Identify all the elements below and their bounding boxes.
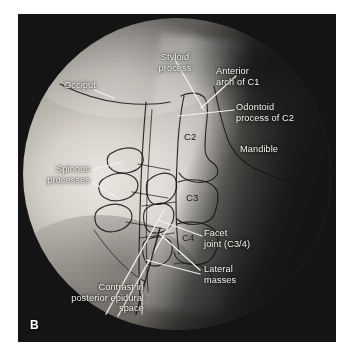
label-vertebra-c3: C3	[186, 192, 198, 203]
spinous-process-c2-outline	[107, 148, 143, 173]
occiput-outline	[60, 84, 170, 104]
anatomy-tracing-overlay	[18, 14, 336, 342]
leader-anterior-arch-c1	[201, 76, 236, 108]
panel-letter: B	[30, 318, 39, 332]
spinous-process-connector-upper	[138, 164, 170, 170]
c5-body-outline	[174, 263, 213, 284]
spinous-process-connector-lower	[126, 222, 164, 229]
spinous-process-c3-outline	[99, 173, 138, 201]
radiograph-plate: Styloid process Anterior arch of C1 Odon…	[18, 14, 336, 342]
spinous-process-c4-outline	[95, 204, 132, 232]
label-vertebra-c4: C4	[182, 232, 194, 243]
radiograph-figure: Styloid process Anterior arch of C1 Odon…	[0, 0, 352, 355]
lateral-mass-c2-outline	[146, 173, 176, 204]
leader-occiput	[94, 90, 114, 98]
mandible-outline	[214, 86, 314, 190]
leader-spinous-processes-lower	[92, 182, 118, 198]
leader-odontoid-process-c2	[178, 110, 234, 116]
leader-styloid-process	[174, 58, 204, 110]
spinous-process-connector-mid	[132, 192, 168, 198]
label-vertebra-c2: C2	[184, 131, 196, 142]
